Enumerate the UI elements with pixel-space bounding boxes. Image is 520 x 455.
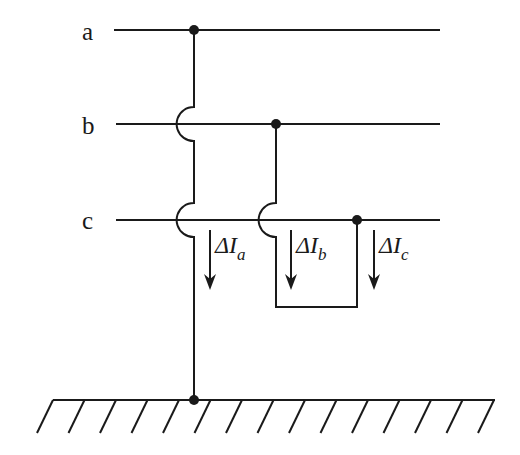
current-ia-label: ΔIa xyxy=(214,232,246,264)
phase-b-wire xyxy=(259,124,357,307)
current-ib-label: ΔIb xyxy=(295,232,327,264)
junction-a-dot xyxy=(189,25,199,35)
junction-b-dot xyxy=(271,119,281,129)
ground-symbol xyxy=(37,400,495,433)
bus-b-label: b xyxy=(82,112,95,139)
current-ic-label: ΔIc xyxy=(378,232,409,264)
bus-a-label: a xyxy=(82,18,93,45)
fault-diagram: a b c ΔIa ΔIb ΔIc xyxy=(0,0,520,455)
phase-a-ground-wire xyxy=(177,30,194,400)
bus-c-label: c xyxy=(82,207,93,234)
junction-c-dot xyxy=(352,215,362,225)
